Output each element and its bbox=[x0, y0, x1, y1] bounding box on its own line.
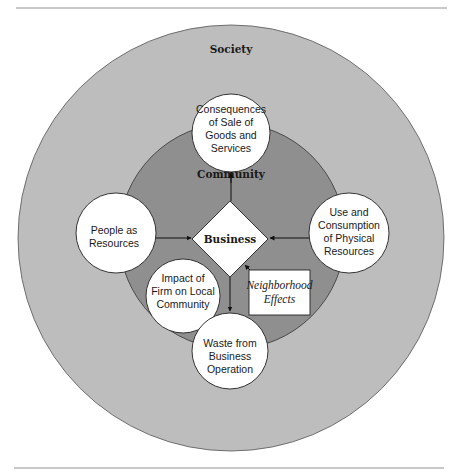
svg-text:Resources: Resources bbox=[324, 245, 374, 257]
svg-text:Services: Services bbox=[211, 142, 251, 154]
svg-text:of Sale of: of Sale of bbox=[209, 116, 253, 128]
node-waste: Waste from Business Operation bbox=[192, 313, 268, 389]
node-consequences: Consequences of Sale of Goods and Servic… bbox=[192, 94, 270, 172]
svg-text:People as: People as bbox=[91, 224, 138, 236]
node-people: People as Resources bbox=[76, 193, 156, 273]
box-line-1: Neighborhood bbox=[245, 279, 312, 292]
svg-text:Community: Community bbox=[156, 298, 210, 310]
svg-text:Consumption: Consumption bbox=[318, 219, 380, 231]
box-line-2: Effects bbox=[263, 293, 296, 306]
svg-text:Resources: Resources bbox=[89, 237, 139, 249]
svg-text:Use and: Use and bbox=[329, 206, 368, 218]
svg-text:Goods and: Goods and bbox=[205, 129, 257, 141]
svg-text:Operation: Operation bbox=[207, 363, 253, 375]
svg-text:Consequences: Consequences bbox=[196, 103, 266, 115]
node-use: Use and Consumption of Physical Resource… bbox=[309, 193, 389, 273]
svg-text:of Physical: of Physical bbox=[324, 232, 375, 244]
business-society-diagram: Society Community Business Neighborhood … bbox=[0, 0, 465, 476]
svg-text:Firm on Local: Firm on Local bbox=[151, 285, 215, 297]
svg-text:Impact of: Impact of bbox=[161, 272, 204, 284]
svg-text:Business: Business bbox=[209, 350, 252, 362]
society-label: Society bbox=[210, 43, 253, 55]
svg-text:Waste from: Waste from bbox=[203, 337, 257, 349]
business-label: Business bbox=[204, 233, 257, 245]
